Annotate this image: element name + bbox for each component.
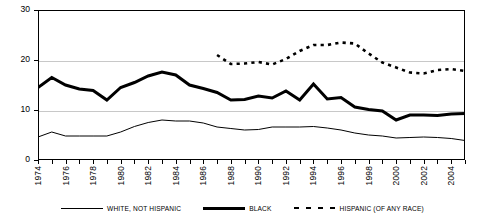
legend-swatch-thick-icon: [203, 205, 245, 211]
x-tick-mark-1997: [355, 160, 356, 164]
x-tick-mark-1992: [286, 160, 287, 164]
x-tick-mark-1983: [162, 160, 163, 164]
x-tick-label-1978: 1978: [88, 166, 98, 185]
legend-label: BLACK: [249, 205, 271, 212]
x-tick-label-1974: 1974: [33, 166, 43, 185]
x-tick-mark-1995: [327, 160, 328, 164]
x-tick-label-1994: 1994: [308, 166, 318, 185]
legend-entry-1: BLACK: [203, 205, 271, 212]
x-tick-mark-1993: [300, 160, 301, 164]
series-line-black: [38, 72, 465, 120]
x-tick-mark-1976: [66, 160, 67, 164]
x-tick-mark-1977: [79, 160, 80, 164]
series-line-white-not-hispanic: [38, 120, 465, 141]
x-tick-mark-1989: [245, 160, 246, 164]
x-tick-label-1988: 1988: [226, 166, 236, 185]
x-tick-mark-1987: [217, 160, 218, 164]
x-tick-mark-1975: [52, 160, 53, 164]
legend-swatch-dotted-icon: [294, 205, 336, 211]
chart-legend: WHITE, NOT HISPANICBLACKHISPANIC (OF ANY…: [0, 200, 485, 216]
x-tick-mark-1984: [176, 160, 177, 164]
x-tick-mark-1979: [107, 160, 108, 164]
x-tick-label-1996: 1996: [336, 166, 346, 185]
x-tick-mark-1999: [382, 160, 383, 164]
x-tick-mark-1974: [38, 160, 39, 164]
legend-label: HISPANIC (OF ANY RACE): [340, 205, 424, 212]
y-tick-label-0: 0: [8, 154, 30, 164]
x-tick-label-1980: 1980: [116, 166, 126, 185]
y-tick-label-10: 10: [8, 104, 30, 114]
x-tick-mark-1980: [121, 160, 122, 164]
x-tick-label-1998: 1998: [364, 166, 374, 185]
x-tick-mark-2002: [424, 160, 425, 164]
x-tick-label-2004: 2004: [446, 166, 456, 185]
x-tick-mark-2003: [437, 160, 438, 164]
x-tick-mark-1978: [93, 160, 94, 164]
x-tick-mark-1998: [369, 160, 370, 164]
x-tick-mark-2005: [465, 160, 466, 164]
x-tick-label-1990: 1990: [253, 166, 263, 185]
x-tick-label-1986: 1986: [198, 166, 208, 185]
x-tick-mark-1988: [231, 160, 232, 164]
y-tick-label-30: 30: [8, 4, 30, 14]
x-tick-mark-1990: [258, 160, 259, 164]
poverty-rate-line-chart: % Below Poverty Level 0102030 1974197619…: [0, 0, 485, 222]
x-tick-mark-1991: [272, 160, 273, 164]
x-tick-label-2000: 2000: [391, 166, 401, 185]
x-tick-mark-2000: [396, 160, 397, 164]
y-tick-label-20: 20: [8, 54, 30, 64]
x-tick-mark-2004: [451, 160, 452, 164]
x-tick-mark-1982: [148, 160, 149, 164]
legend-label: WHITE, NOT HISPANIC: [107, 205, 181, 212]
x-tick-mark-1996: [341, 160, 342, 164]
series-line-hispanic-of-any-race: [217, 43, 465, 74]
x-tick-mark-2001: [410, 160, 411, 164]
x-tick-mark-1986: [203, 160, 204, 164]
x-tick-label-1982: 1982: [143, 166, 153, 185]
data-series-layer: [38, 10, 465, 160]
x-tick-label-1984: 1984: [171, 166, 181, 185]
x-tick-label-1992: 1992: [281, 166, 291, 185]
x-tick-mark-1994: [313, 160, 314, 164]
legend-entry-2: HISPANIC (OF ANY RACE): [294, 205, 424, 212]
x-tick-mark-1981: [134, 160, 135, 164]
legend-entry-0: WHITE, NOT HISPANIC: [61, 205, 181, 212]
x-tick-label-1976: 1976: [61, 166, 71, 185]
legend-swatch-thin-icon: [61, 205, 103, 211]
x-tick-mark-1985: [190, 160, 191, 164]
x-tick-label-2002: 2002: [419, 166, 429, 185]
